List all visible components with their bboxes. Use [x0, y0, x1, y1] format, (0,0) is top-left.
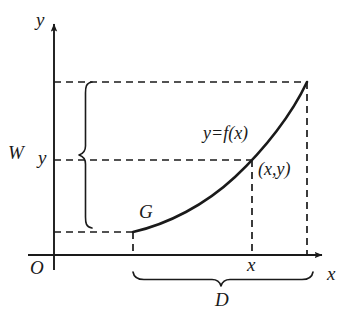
range-brace-W	[79, 82, 92, 228]
x-axis-label: x	[327, 264, 335, 283]
point-label: (x,y)	[258, 160, 290, 178]
domain-brace-label: D	[215, 290, 229, 309]
y-axis-label: y	[36, 10, 44, 29]
x-tick-label: x	[247, 255, 255, 274]
function-curve	[133, 82, 307, 232]
curve-start-label: G	[139, 202, 153, 221]
function-label: y=f(x)	[203, 124, 248, 142]
domain-brace-D	[133, 272, 313, 286]
origin-label: O	[30, 258, 44, 277]
y-tick-label: y	[38, 148, 46, 167]
diagram-canvas	[0, 0, 344, 336]
axes-group	[28, 24, 322, 270]
figure-diagram: y x O W y G y=f(x) (x,y) x D	[0, 0, 344, 336]
range-brace-label: W	[8, 143, 24, 162]
